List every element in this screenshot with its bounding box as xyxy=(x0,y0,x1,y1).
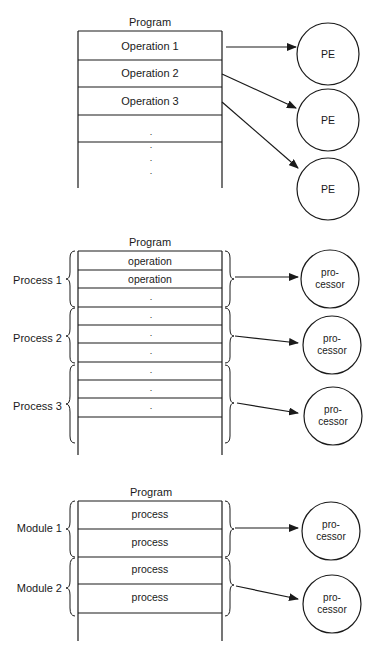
processor-label: cessor xyxy=(317,604,347,615)
program-title: Program xyxy=(129,236,171,248)
processor-label: pro- xyxy=(323,333,341,344)
ellipsis-dot: . xyxy=(150,153,153,163)
processor-label: pro- xyxy=(322,519,340,530)
process-row: process xyxy=(132,563,169,575)
right-brace-icon xyxy=(225,251,234,443)
arrow-icon xyxy=(237,403,298,413)
figure-operations-to-pe: Program Operation 1 Operation 2 Operatio… xyxy=(78,16,359,220)
diagram-canvas: Program Operation 1 Operation 2 Operatio… xyxy=(0,0,388,650)
ellipsis-dot: . xyxy=(150,127,153,137)
processor-label: cessor xyxy=(316,531,346,542)
left-brace-icon xyxy=(66,501,75,616)
ellipsis-dot: . xyxy=(150,140,153,150)
figure-processes-to-processors: Program operation operation . . . . . . … xyxy=(13,236,362,455)
pe-label: PE xyxy=(321,114,335,126)
group-label: Process 2 xyxy=(13,332,62,344)
processor-label: pro- xyxy=(323,592,341,603)
group-label: Module 1 xyxy=(17,522,62,534)
ellipsis-dot: . xyxy=(150,292,153,302)
ellipsis-dot: . xyxy=(150,328,153,338)
processor-label: cessor xyxy=(318,416,348,427)
process-row: process xyxy=(132,591,169,603)
ellipsis-dot: . xyxy=(150,401,153,411)
group-label: Module 2 xyxy=(17,582,62,594)
program-title: Program xyxy=(129,16,171,28)
figure-modules-to-processors: Program process process process process … xyxy=(17,486,361,641)
ellipsis-dot: . xyxy=(150,346,153,356)
processor-label: pro- xyxy=(324,404,342,415)
pe-label: PE xyxy=(321,48,335,60)
operation-row: Operation 1 xyxy=(121,40,178,52)
arrow-icon xyxy=(222,102,298,168)
program-box xyxy=(78,31,222,188)
operation-row: operation xyxy=(128,255,172,267)
group-label: Process 3 xyxy=(13,400,62,412)
operation-row: Operation 2 xyxy=(121,67,178,79)
pe-label: PE xyxy=(321,183,335,195)
processor-label: pro- xyxy=(321,267,339,278)
process-row: process xyxy=(132,508,169,520)
arrow-icon xyxy=(235,336,298,343)
ellipsis-dot: . xyxy=(150,166,153,176)
operation-row: Operation 3 xyxy=(121,95,178,107)
processor-label: cessor xyxy=(315,279,345,290)
program-title: Program xyxy=(130,486,172,498)
group-label: Process 1 xyxy=(13,274,62,286)
process-row: process xyxy=(132,536,169,548)
ellipsis-dot: . xyxy=(150,365,153,375)
right-brace-icon xyxy=(225,501,234,616)
left-brace-icon xyxy=(66,251,75,443)
arrow-icon xyxy=(236,586,298,599)
ellipsis-dot: . xyxy=(150,310,153,320)
operation-row: operation xyxy=(128,273,172,285)
processor-label: cessor xyxy=(317,345,347,356)
ellipsis-dot: . xyxy=(150,383,153,393)
arrow-icon xyxy=(222,74,296,108)
